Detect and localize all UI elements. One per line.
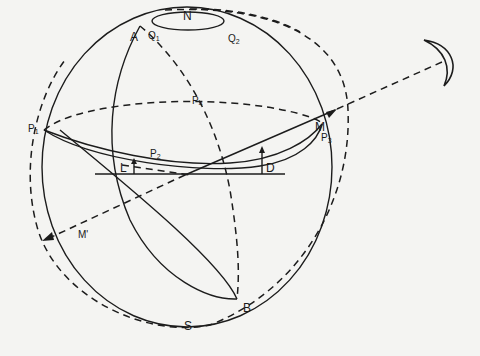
celestial-sphere-diagram: N A Q1 Q2 P1 P2 P3 P4 M M' L D B S <box>0 0 480 356</box>
label-b: B <box>243 301 251 315</box>
label-m-prime: M' <box>78 229 88 240</box>
label-q1: Q1 <box>148 30 160 42</box>
label-p2: P2 <box>150 148 161 160</box>
angle-d-arrowhead <box>259 146 265 153</box>
label-p4: P4 <box>192 95 203 107</box>
label-p1: P1 <box>28 123 39 135</box>
diagram-canvas: N A Q1 Q2 P1 P2 P3 P4 M M' L D B S <box>0 0 480 356</box>
tilted-sphere-outline <box>30 9 348 327</box>
moon-direction-dashed <box>337 62 442 109</box>
label-s: S <box>184 319 192 333</box>
label-m: M <box>315 120 325 134</box>
label-a: A <box>130 30 138 44</box>
ecliptic-arc <box>44 124 322 164</box>
equator-back <box>44 101 322 130</box>
label-angle-d: D <box>266 161 275 175</box>
moon-direction-solid <box>185 110 335 175</box>
label-angle-l: L <box>120 161 127 175</box>
meridian-a-b-solid <box>112 26 237 299</box>
label-q2: Q2 <box>228 33 240 45</box>
arrow-head-m-prime <box>42 232 54 241</box>
meridian-p1-b <box>60 130 237 299</box>
arrow-head-m <box>326 109 337 118</box>
antipode-direction <box>45 175 185 240</box>
label-n: N <box>183 9 192 23</box>
